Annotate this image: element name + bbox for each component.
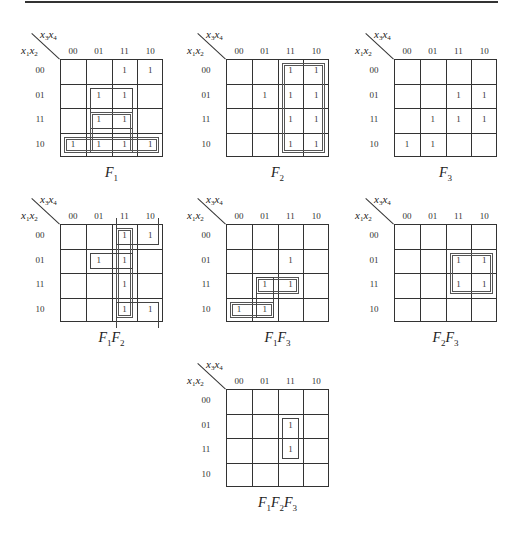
column-header: 10: [471, 46, 497, 56]
column-header: 00: [226, 46, 252, 56]
top-rule: [25, 1, 498, 3]
grid-line: [226, 438, 329, 439]
row-header: 00: [364, 230, 384, 240]
column-header: 01: [420, 211, 446, 221]
row-header: 10: [364, 139, 384, 149]
column-header: 00: [226, 211, 252, 221]
row-header: 00: [196, 65, 216, 75]
grouping-loop: [450, 253, 494, 294]
row-header: 11: [30, 114, 50, 124]
row-header: 11: [30, 279, 50, 289]
map-caption: F2: [226, 165, 329, 183]
grid-line: [394, 133, 497, 134]
grid-line: [303, 389, 304, 487]
cell-value: 1: [394, 139, 420, 149]
row-header: 01: [30, 255, 50, 265]
row-header: 01: [30, 90, 50, 100]
column-variables-label: x3x4: [374, 193, 391, 207]
column-header: 01: [86, 211, 112, 221]
cell-value: 1: [137, 65, 163, 75]
map-caption: F1: [60, 165, 163, 183]
row-header: 00: [30, 65, 50, 75]
row-header: 11: [196, 114, 216, 124]
row-header: 01: [364, 90, 384, 100]
grid-line: [226, 463, 329, 464]
column-header: 00: [60, 46, 86, 56]
column-variables-label: x3x4: [40, 193, 57, 207]
grid-line: [60, 298, 163, 299]
row-header: 10: [196, 469, 216, 479]
row-variables-label: x1x2: [187, 374, 204, 388]
row-variables-label: x1x2: [355, 209, 372, 223]
row-header: 00: [364, 65, 384, 75]
grouping-loop: [256, 277, 274, 318]
column-header: 00: [394, 211, 420, 221]
column-header: 01: [420, 46, 446, 56]
row-header: 00: [196, 395, 216, 405]
grid-line: [60, 273, 163, 274]
cell-value: 1: [420, 114, 446, 124]
column-header: 11: [112, 46, 138, 56]
row-header: 00: [196, 230, 216, 240]
grouping-loop: [90, 253, 134, 270]
map-caption: F1F2: [60, 330, 163, 348]
column-header: 00: [226, 376, 252, 386]
grouping-loop: [282, 418, 300, 459]
grid-line: [226, 298, 329, 299]
row-variables-label: x1x2: [21, 209, 38, 223]
map-caption: F3: [394, 165, 497, 183]
grid-line: [471, 59, 472, 157]
row-header: 10: [196, 304, 216, 314]
grid-line: [394, 108, 497, 109]
cell-value: 1: [252, 90, 278, 100]
cell-value: 1: [420, 139, 446, 149]
grid-line: [303, 224, 304, 322]
column-header: 11: [278, 211, 304, 221]
row-header: 10: [30, 139, 50, 149]
column-variables-label: x3x4: [206, 28, 223, 42]
column-variables-label: x3x4: [206, 358, 223, 372]
row-header: 01: [196, 90, 216, 100]
row-variables-label: x1x2: [187, 209, 204, 223]
grouping-loop: [64, 137, 159, 154]
row-header: 10: [30, 304, 50, 314]
row-header: 11: [364, 279, 384, 289]
row-variables-label: x1x2: [187, 44, 204, 58]
column-header: 11: [278, 46, 304, 56]
column-header: 10: [303, 46, 329, 56]
column-variables-label: x3x4: [40, 28, 57, 42]
map-caption: F2F3: [394, 330, 497, 348]
row-header: 11: [196, 444, 216, 454]
column-header: 11: [446, 211, 472, 221]
column-header: 10: [471, 211, 497, 221]
map-caption: F1F2F3: [226, 495, 329, 513]
map-caption: F1F3: [226, 330, 329, 348]
cell-value: 1: [471, 114, 497, 124]
grid-line: [226, 273, 329, 274]
row-header: 01: [196, 420, 216, 430]
column-header: 01: [252, 46, 278, 56]
cell-value: 1: [471, 90, 497, 100]
column-header: 00: [394, 46, 420, 56]
column-header: 00: [60, 211, 86, 221]
row-header: 10: [196, 139, 216, 149]
row-variables-label: x1x2: [21, 44, 38, 58]
column-header: 01: [252, 376, 278, 386]
row-header: 01: [364, 255, 384, 265]
grid-line: [394, 298, 497, 299]
grouping-loop: [116, 218, 160, 245]
cell-value: 1: [446, 114, 472, 124]
row-variables-label: x1x2: [355, 44, 372, 58]
row-header: 11: [364, 114, 384, 124]
grouping-loop: [116, 302, 160, 329]
column-header: 01: [86, 46, 112, 56]
column-header: 10: [303, 376, 329, 386]
row-header: 10: [364, 304, 384, 314]
column-header: 10: [303, 211, 329, 221]
column-header: 11: [278, 376, 304, 386]
cell-value: 1: [278, 255, 304, 265]
row-header: 00: [30, 230, 50, 240]
row-header: 11: [196, 279, 216, 289]
grouping-loop: [282, 63, 326, 153]
column-header: 10: [137, 46, 163, 56]
